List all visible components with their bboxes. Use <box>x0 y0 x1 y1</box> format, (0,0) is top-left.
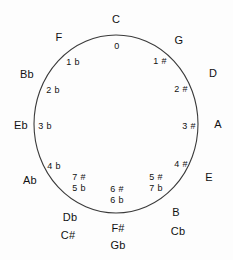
acc-stack-sharp7-flat5: 7 #5 b <box>72 172 85 195</box>
acc-2-sharp: 2 # <box>174 85 187 94</box>
acc-4-sharp: 4 # <box>174 160 187 169</box>
acc-3-flat: 3 b <box>38 122 51 131</box>
acc-3-sharp: 3 # <box>182 122 195 131</box>
acc-stack-sharp5-flat7-top: 5 # <box>149 172 162 183</box>
acc-stack-sharp6-flat6: 6 #6 b <box>110 184 123 207</box>
key-bb: Bb <box>20 69 34 80</box>
key-fsharp: F# <box>111 223 124 234</box>
acc-1-sharp: 1 # <box>153 57 166 66</box>
key-db: Db <box>63 212 77 223</box>
acc-2-flat: 2 b <box>46 86 59 95</box>
acc-stack-sharp5-flat7: 5 #7 b <box>149 172 162 195</box>
acc-stack-sharp6-flat6-bottom: 6 b <box>110 195 123 206</box>
key-b: B <box>172 207 180 218</box>
key-e: E <box>205 172 213 183</box>
circle-of-fifths-diagram: CGDAEBCbF#GbDbC#AbEbBbF 01 #2 #3 #4 #1 b… <box>0 0 233 260</box>
acc-stack-sharp7-flat5-top: 7 # <box>72 172 85 183</box>
acc-0: 0 <box>114 42 119 51</box>
key-c: C <box>112 14 120 25</box>
acc-stack-sharp6-flat6-top: 6 # <box>110 184 123 195</box>
acc-1-flat: 1 b <box>66 58 79 67</box>
key-eb: Eb <box>14 120 28 131</box>
acc-stack-sharp7-flat5-bottom: 5 b <box>72 183 85 194</box>
key-csharp: C# <box>61 230 75 241</box>
key-d: D <box>209 68 217 79</box>
key-f: F <box>56 32 63 43</box>
key-gb: Gb <box>110 240 125 251</box>
acc-4-flat: 4 b <box>47 162 60 171</box>
acc-stack-sharp5-flat7-bottom: 7 b <box>149 183 162 194</box>
key-g: G <box>175 35 184 46</box>
key-ab: Ab <box>23 175 37 186</box>
key-a: A <box>214 119 222 130</box>
key-cb: Cb <box>171 226 185 237</box>
